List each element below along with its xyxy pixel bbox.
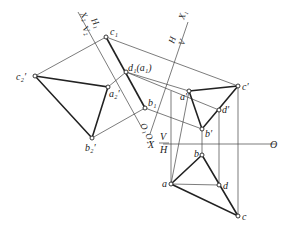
aux-axis-1: X₁ H V — [150, 9, 189, 134]
label-c: c — [242, 211, 247, 222]
label-b2p: b₂′ — [85, 142, 96, 153]
label-d1a1: d₁(a₁) — [128, 62, 152, 74]
axis-label-h: H — [159, 144, 168, 155]
label-c2p: c₂′ — [16, 71, 27, 82]
axis-label-o: O — [270, 139, 277, 150]
svg-text:V₂: V₂ — [80, 24, 93, 36]
label-cp: c′ — [242, 81, 249, 92]
label-b: b — [194, 148, 199, 159]
label-b1: b₁ — [148, 97, 156, 108]
label-dp: d′ — [222, 104, 230, 115]
label-a: a — [162, 178, 167, 189]
svg-text:X₁: X₁ — [176, 9, 189, 21]
point-labels: c₁ c₂′ a₂′ b₂′ d₁(a₁) b₁ a′ c′ d′ b′ b a… — [16, 26, 249, 222]
true-shape-triangle — [35, 76, 108, 138]
projection-diagram: X V H O X₁ H V X₂ H₁ V₂ O₁ O₂ — [0, 0, 281, 235]
label-bp: b′ — [205, 128, 213, 139]
axis-label-v: V — [160, 131, 168, 142]
label-d: d — [223, 180, 229, 191]
label-ap: a′ — [180, 91, 188, 102]
label-a2p: a₂′ — [109, 88, 120, 99]
svg-text:O₂: O₂ — [143, 131, 156, 144]
label-c1: c₁ — [110, 26, 118, 37]
